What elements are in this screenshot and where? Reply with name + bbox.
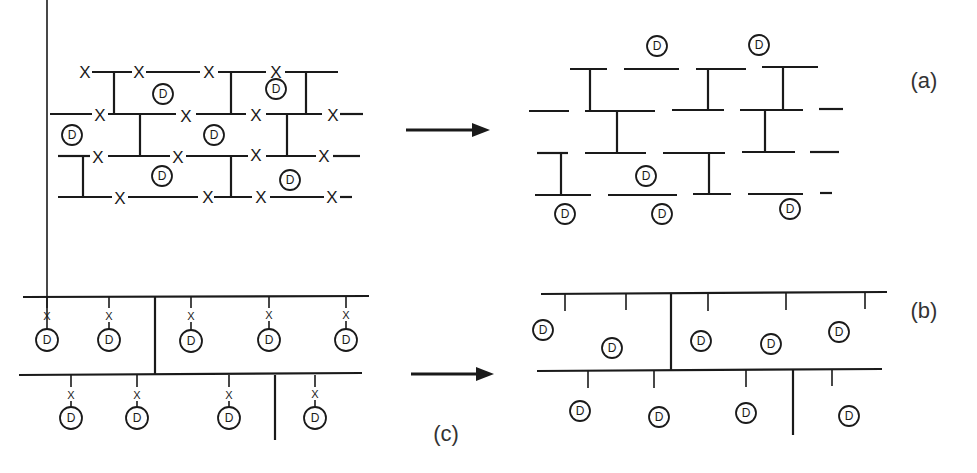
svg-text:X: X xyxy=(180,107,191,126)
svg-text:D: D xyxy=(642,169,651,183)
svg-text:D: D xyxy=(158,169,167,183)
svg-text:D: D xyxy=(133,411,142,425)
svg-text:D: D xyxy=(653,39,662,53)
svg-text:D: D xyxy=(767,337,776,351)
panel-a-before-network: X X X X X X X X X X X X X X X X D D D D … xyxy=(50,63,363,208)
svg-text:X: X xyxy=(67,389,75,401)
panel-label-a: (a) xyxy=(911,68,938,93)
panel-c-before-pendant: X D X D X D X D X D X D xyxy=(19,0,369,440)
transition-arrow-a xyxy=(406,123,490,137)
svg-text:D: D xyxy=(576,404,585,418)
svg-text:D: D xyxy=(697,334,706,348)
svg-text:D: D xyxy=(655,410,664,424)
svg-text:D: D xyxy=(786,202,795,216)
panel-a-after-network: D D D D D D xyxy=(529,35,843,224)
svg-text:X: X xyxy=(133,389,141,401)
svg-text:D: D xyxy=(742,406,751,420)
svg-text:X: X xyxy=(265,309,273,321)
svg-text:D: D xyxy=(68,128,77,142)
svg-text:D: D xyxy=(845,409,854,423)
svg-text:D: D xyxy=(539,323,548,337)
released-drug-markers: D D D D D D xyxy=(555,35,800,224)
svg-text:X: X xyxy=(342,309,350,321)
svg-text:D: D xyxy=(210,128,219,142)
panel-label-b: (b) xyxy=(911,298,938,323)
svg-text:D: D xyxy=(43,333,52,347)
svg-text:D: D xyxy=(835,325,844,339)
svg-text:D: D xyxy=(755,38,764,52)
svg-text:X: X xyxy=(79,63,90,82)
svg-text:X: X xyxy=(202,188,213,207)
svg-text:D: D xyxy=(187,334,196,348)
svg-text:X: X xyxy=(133,63,144,82)
svg-text:X: X xyxy=(327,106,338,125)
svg-text:X: X xyxy=(255,188,266,207)
svg-text:X: X xyxy=(311,388,319,400)
pendant-drug-upper: X D X D X D X D X D xyxy=(36,0,357,352)
svg-text:D: D xyxy=(311,411,320,425)
drug-markers: D D D D D D xyxy=(62,79,300,190)
svg-text:D: D xyxy=(272,82,281,96)
svg-text:X: X xyxy=(250,106,261,125)
svg-text:D: D xyxy=(286,173,295,187)
svg-text:X: X xyxy=(250,146,261,165)
svg-text:D: D xyxy=(608,341,617,355)
svg-text:X: X xyxy=(203,63,214,82)
panel-b-after-backbone: D D D D D D D D D xyxy=(533,292,887,435)
svg-text:X: X xyxy=(92,148,103,167)
svg-text:D: D xyxy=(342,333,351,347)
svg-text:X: X xyxy=(105,310,113,322)
svg-text:D: D xyxy=(225,411,234,425)
pendant-drug-lower: X D X D X D X D xyxy=(60,375,326,429)
svg-text:X: X xyxy=(225,389,233,401)
svg-text:X: X xyxy=(326,188,337,207)
svg-text:D: D xyxy=(159,87,168,101)
svg-text:D: D xyxy=(265,333,274,347)
svg-text:X: X xyxy=(94,106,105,125)
diagram-canvas: X X X X X X X X X X X X X X X X D D D D … xyxy=(0,0,977,473)
free-drug-markers: D D D D D D D D D xyxy=(533,320,859,427)
svg-text:X: X xyxy=(172,148,183,167)
panel-label-c: (c) xyxy=(433,421,459,446)
svg-text:X: X xyxy=(318,147,329,166)
svg-text:D: D xyxy=(67,411,76,425)
svg-text:D: D xyxy=(658,207,667,221)
transition-arrow-b xyxy=(411,367,494,381)
svg-text:D: D xyxy=(105,333,114,347)
svg-text:D: D xyxy=(561,207,570,221)
svg-text:X: X xyxy=(114,189,125,208)
svg-text:X: X xyxy=(187,310,195,322)
